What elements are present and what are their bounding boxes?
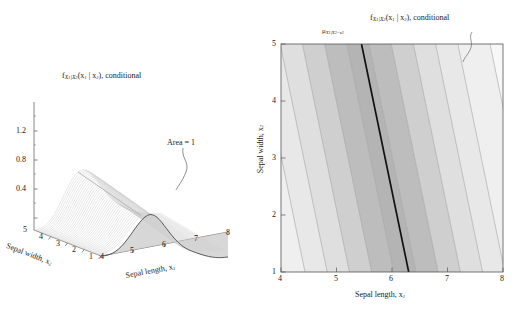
x-tick-label-5: 5: [130, 247, 134, 255]
right-panel-contour: fX1|X2(x1 | x2), conditional μX1|X2=x2: [260, 0, 519, 317]
ridge-crest-line: [78, 172, 141, 216]
z-tick-label-1.2: 1.2: [16, 127, 26, 135]
right-y-tick-label-2: 2: [272, 211, 276, 219]
right-x-tick-label-8: 8: [500, 275, 504, 283]
right-x-tick-label-6: 6: [389, 275, 393, 283]
right-contour-canvas: [260, 0, 519, 317]
right-y-tick-label-4: 4: [272, 97, 276, 105]
x-tick-label-8: 8: [226, 229, 230, 237]
z-tick-label-0.8: 0.8: [16, 156, 26, 164]
right-y-tick-label-1: 1: [272, 268, 276, 276]
area-annotation-label: Area = 1: [167, 139, 195, 147]
left-panel-3d-surface: fX1|X2(x1 | x2), conditional: [0, 0, 260, 317]
y-tick-2: [82, 250, 84, 253]
right-y-tick-label-5: 5: [272, 40, 276, 48]
figure-root: fX1|X2(x1 | x2), conditional: [0, 0, 519, 317]
x-tick-label-7: 7: [194, 235, 198, 243]
y-tick-label-2: 2: [72, 246, 76, 254]
y-tick-4: [49, 237, 51, 240]
z-tick-label-0.4: 0.4: [16, 185, 26, 193]
surface-mesh: [34, 170, 228, 258]
y-tick-label-1: 1: [89, 253, 93, 261]
right-y-tick-label-3: 3: [272, 154, 276, 162]
front-slice-fill: [101, 215, 228, 258]
area-annotation-leader: [176, 148, 187, 190]
x-tick-label-6: 6: [162, 241, 166, 249]
right-x-tick-label-7: 7: [445, 275, 449, 283]
y-tick-label-4: 4: [39, 233, 43, 241]
y-tick-label-5: 5: [23, 226, 27, 234]
y-tick-label-3: 3: [56, 240, 60, 248]
right-y-axis-title: Sepal width, x2: [257, 125, 265, 173]
y-tick-3: [65, 243, 67, 246]
right-x-axis-title: Sepal length, x1: [355, 291, 405, 300]
x-tick-label-4: 4: [100, 253, 104, 261]
right-x-tick-label-4: 4: [278, 275, 282, 283]
right-x-tick-label-5: 5: [334, 275, 338, 283]
